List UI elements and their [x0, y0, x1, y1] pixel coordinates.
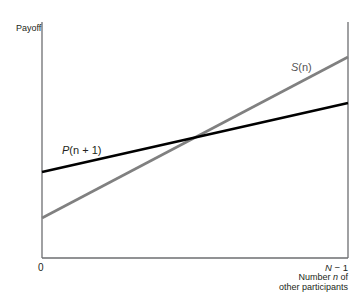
chart-canvas — [0, 0, 364, 303]
x-label-other: other participants — [279, 282, 348, 292]
p-line-label: P(n + 1) — [62, 145, 101, 156]
s-line-label: S(n) — [291, 62, 312, 73]
s-args: (n) — [298, 61, 311, 73]
x-tick-origin: 0 — [38, 262, 44, 273]
x-label-number: Number — [298, 272, 333, 282]
x-axis-label: Number n of other participants — [279, 272, 348, 292]
x-label-of: of — [338, 272, 348, 282]
p-args: (n + 1) — [69, 144, 101, 156]
p-line — [42, 103, 348, 172]
y-axis-label: Payoff — [16, 23, 41, 34]
